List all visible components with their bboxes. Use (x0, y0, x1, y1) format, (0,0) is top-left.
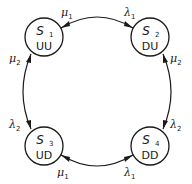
rate-label-s2-to-s4: λ2 (169, 118, 181, 133)
state-code: DU (142, 40, 159, 53)
rate-label-s4-to-s3: μ1 (57, 166, 69, 181)
state-s3: S 3 UD (25, 127, 63, 165)
arrowhead-to-s2-right (163, 54, 168, 63)
arrowhead-to-s1-top (61, 21, 70, 28)
rate-label-s2-to-s1: μ1 (61, 6, 73, 21)
arrowhead-to-s4-right (163, 120, 168, 129)
arc-s1-s3 (23, 54, 31, 129)
state-index: 1 (49, 31, 53, 39)
state-transition-diagram: S 1 UU S 2 DU S 3 UD S 4 DD μ1 λ1 μ2 λ2 … (0, 0, 192, 184)
arc-s3-s4 (61, 155, 133, 166)
state-label: S (142, 133, 150, 147)
rate-label-s1-to-s3: λ2 (8, 118, 20, 133)
state-label: S (142, 24, 150, 38)
state-s4: S 4 DD (131, 127, 169, 165)
arrowhead-to-s4-bottom (124, 155, 133, 162)
rate-label-s3-to-s1: μ2 (9, 52, 21, 67)
rate-label-s4-to-s2: μ2 (170, 52, 182, 67)
rate-label-s3-to-s4: λ1 (123, 166, 135, 181)
arrowhead-to-s2-top (124, 21, 133, 28)
state-index: 4 (155, 140, 160, 148)
state-s2: S 2 DU (131, 18, 169, 56)
state-index: 3 (49, 140, 53, 148)
arrowhead-to-s3-bottom (61, 155, 70, 162)
state-code: UD (36, 149, 53, 162)
state-label: S (36, 24, 44, 38)
arrowhead-to-s3-left (26, 120, 31, 129)
state-code: DD (142, 149, 159, 162)
arrowhead-to-s1-left (26, 54, 31, 63)
state-index: 2 (155, 31, 159, 39)
state-code: UU (36, 40, 52, 53)
state-label: S (36, 133, 44, 147)
rate-label-s1-to-s2: λ1 (123, 6, 135, 21)
state-s1: S 1 UU (25, 18, 63, 56)
